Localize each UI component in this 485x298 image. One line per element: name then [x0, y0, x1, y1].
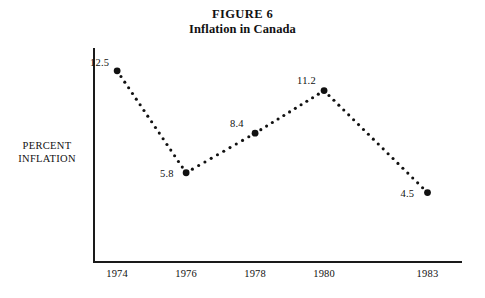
data-point-marker	[114, 67, 121, 74]
data-point-marker	[183, 169, 190, 176]
x-tick-label: 1974	[87, 268, 147, 279]
plot-area: PERCENT INFLATION 19741976197819801983 1…	[0, 0, 485, 298]
data-point-value-label: 5.8	[160, 168, 174, 179]
data-point-marker	[424, 189, 431, 196]
x-tick-label: 1978	[225, 268, 285, 279]
data-point-marker	[321, 87, 328, 94]
inflation-series	[0, 0, 485, 298]
data-point-value-label: 8.4	[230, 118, 244, 129]
data-point-value-label: 11.2	[297, 75, 316, 86]
x-tick-label: 1983	[398, 268, 458, 279]
data-point-value-label: 4.5	[401, 188, 415, 199]
data-point-value-label: 12.5	[90, 57, 109, 68]
x-tick-label: 1976	[156, 268, 216, 279]
data-point-marker	[252, 130, 259, 137]
figure-container: FIGURE 6 Inflation in Canada PERCENT INF…	[0, 0, 485, 298]
x-tick-label: 1980	[294, 268, 354, 279]
